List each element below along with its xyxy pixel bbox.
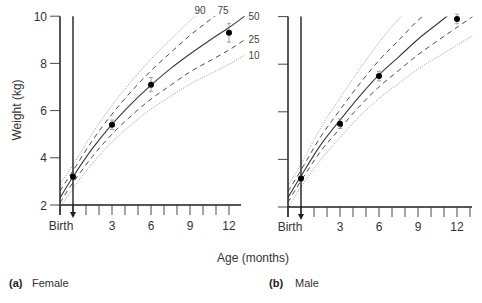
data-point	[337, 119, 343, 129]
percentile-curves	[288, 2, 473, 208]
male-growth-chart: Birth36912	[278, 2, 473, 234]
panel-b-tag: (b)	[269, 277, 283, 289]
data-point	[148, 78, 154, 92]
y-tick-label: 8	[40, 57, 47, 71]
point-marker	[70, 174, 76, 180]
panel-b-title: Male	[295, 277, 319, 289]
percentile-25-curve	[60, 40, 245, 203]
x-tick-label: 9	[187, 219, 194, 233]
arrow-down-icon	[70, 212, 76, 218]
x-tick-label: 12	[450, 220, 464, 234]
y-tick-label: 6	[40, 104, 47, 118]
x-tick-label: 3	[337, 220, 344, 234]
y-tick-label: 10	[34, 10, 48, 24]
y-axis-title: Weight (kg)	[10, 79, 24, 140]
percentile-50-curve	[60, 16, 245, 198]
point-marker	[109, 122, 115, 128]
point-marker	[337, 121, 343, 127]
x-tick-label: Birth	[49, 219, 74, 233]
y-tick-label: 2	[40, 199, 47, 213]
percentile-50-label: 50	[248, 11, 260, 22]
percentile-10-label: 10	[248, 50, 260, 61]
percentile-10-curve	[60, 55, 245, 207]
percentile-10-curve	[288, 36, 473, 209]
x-tick-label: 9	[415, 220, 422, 234]
y-tick-label: 4	[40, 151, 47, 165]
x-tick-label: 12	[222, 219, 236, 233]
x-tick-label: 6	[148, 219, 155, 233]
x-tick-label: 6	[376, 220, 383, 234]
x-axis-title: Age (months)	[217, 251, 289, 265]
percentile-90-curve	[60, 4, 210, 183]
percentile-90-label: 90	[194, 5, 206, 16]
percentile-25-label: 25	[248, 34, 260, 45]
point-marker	[226, 30, 232, 36]
growth-chart-figure: 9075502510Birth36912246810 Birth36912 We…	[0, 0, 482, 303]
data-point	[298, 175, 304, 181]
percentile-75-curve	[60, 6, 229, 191]
x-tick-label: Birth	[278, 220, 303, 234]
data-point	[70, 174, 76, 180]
data-point	[454, 14, 460, 24]
point-marker	[298, 175, 304, 181]
panel-a-tag: (a)	[9, 277, 23, 289]
female-growth-chart: 9075502510Birth36912246810	[34, 4, 260, 233]
point-marker	[148, 82, 154, 88]
panel-a-title: Female	[32, 277, 69, 289]
percentile-25-curve	[288, 17, 473, 203]
percentile-75-label: 75	[217, 5, 229, 16]
point-marker	[454, 16, 460, 22]
x-tick-label: 3	[109, 219, 116, 233]
percentile-75-curve	[288, 5, 438, 192]
point-marker	[376, 73, 382, 79]
percentile-curves	[60, 4, 245, 207]
